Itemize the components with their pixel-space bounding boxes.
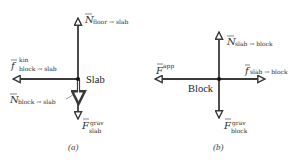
diagram-a: N floor → slab f kin block → slab Slab N… bbox=[9, 14, 129, 152]
svg-text:grav: grav bbox=[90, 119, 104, 127]
leader-line bbox=[66, 91, 76, 99]
caption-b: (b) bbox=[213, 142, 224, 152]
diagram-b: N slab → block F app f slab → block Bloc… bbox=[155, 32, 288, 152]
label-gravity-slab: F grav slab bbox=[81, 119, 104, 134]
label-friction: f slab → block bbox=[244, 65, 288, 76]
svg-text:f: f bbox=[10, 60, 17, 71]
svg-text:kin: kin bbox=[19, 56, 29, 63]
svg-text:floor → slab: floor → slab bbox=[93, 18, 129, 25]
label-gravity-block: F grav block bbox=[223, 119, 248, 134]
svg-text:block → slab: block → slab bbox=[18, 98, 56, 105]
svg-text:slab: slab bbox=[89, 127, 102, 134]
label-normal-slab: N slab → block bbox=[226, 36, 273, 47]
svg-text:slab → block: slab → block bbox=[250, 68, 288, 75]
svg-text:app: app bbox=[163, 62, 174, 70]
label-applied: F app bbox=[155, 62, 174, 76]
free-body-diagrams: N floor → slab f kin block → slab Slab N… bbox=[0, 0, 299, 161]
block-point bbox=[217, 77, 221, 81]
object-label-block: Block bbox=[188, 83, 214, 94]
label-friction-kin: f kin block → slab bbox=[10, 56, 57, 72]
svg-text:slab → block: slab → block bbox=[235, 40, 273, 47]
svg-text:grav: grav bbox=[232, 119, 246, 127]
label-normal-block: N block → slab bbox=[9, 94, 56, 105]
object-label-slab: Slab bbox=[86, 74, 105, 85]
svg-text:block: block bbox=[231, 127, 248, 134]
label-normal-floor: N floor → slab bbox=[84, 14, 129, 25]
slab-point bbox=[76, 77, 80, 81]
caption-a: (a) bbox=[68, 142, 79, 152]
svg-text:block → slab: block → slab bbox=[19, 65, 57, 72]
